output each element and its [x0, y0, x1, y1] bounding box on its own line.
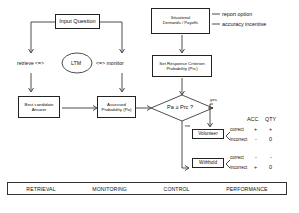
input-question-box: Input Question: [55, 14, 100, 29]
best-candidate-box: Best candidate Answer: [18, 96, 60, 118]
withhold-box: Withhold: [192, 158, 224, 168]
acc-header: ACC: [247, 117, 258, 122]
withhold-incorrect-qty: 0: [269, 165, 272, 170]
volunteer-incorrect-acc: -: [255, 137, 257, 142]
volunteer-incorrect-qty: 0: [269, 137, 272, 142]
volunteer-label: Volunteer: [198, 131, 217, 136]
set-response-criterion-box: Set Response Criterion Probability (Prc): [152, 55, 212, 77]
assessed-line2: Probability (Pa): [101, 107, 131, 112]
input-question-label: Input Question: [59, 18, 95, 24]
ltm-label: LTM: [71, 61, 81, 66]
assessed-probability-box: Assessed Probability (Pa): [97, 96, 136, 118]
yes-label: yes: [210, 98, 217, 102]
withhold-label: Withhold: [199, 160, 217, 165]
decision-label: Pa ≥ Prc ?: [167, 105, 193, 111]
withhold-incorrect-acc: +: [254, 165, 257, 170]
accuracy-incentive-label: accuracy incentive: [222, 22, 266, 27]
withhold-correct-qty: -: [270, 155, 272, 160]
stage-monitoring: MONITORING: [92, 186, 127, 192]
report-option-label: report option: [222, 12, 252, 17]
withhold-incorrect-label: incorrect: [230, 166, 247, 171]
volunteer-correct-qty: +: [269, 127, 272, 132]
volunteer-incorrect-label: incorrect: [230, 138, 247, 143]
best-candidate-line2: Answer: [32, 107, 47, 112]
situational-line2: Demands / Payoffs: [163, 21, 198, 26]
stage-control: CONTROL: [164, 186, 190, 192]
situational-demands-box: Situational Demands / Payoffs: [151, 8, 210, 34]
volunteer-correct-acc: +: [254, 127, 257, 132]
volunteer-correct-label: correct: [230, 128, 244, 133]
withhold-correct-acc: -: [255, 155, 257, 160]
stage-performance: PERFORMANCE: [226, 186, 267, 192]
retrieve-label: retrieve <=>: [17, 61, 44, 66]
no-label: no: [185, 124, 190, 128]
set-response-line2: Probability (Prc): [166, 66, 197, 71]
stage-bar: RETRIEVAL MONITORING CONTROL PERFORMANCE: [7, 182, 287, 195]
stage-retrieval: RETRIEVAL: [26, 186, 55, 192]
qty-header: QTY: [265, 117, 276, 122]
volunteer-box: Volunteer: [192, 129, 224, 139]
withhold-correct-label: correct: [230, 156, 244, 161]
monitor-label: <=> monitor: [96, 61, 124, 66]
